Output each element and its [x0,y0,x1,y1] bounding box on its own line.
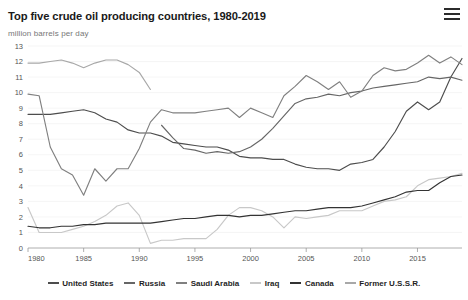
x-axis-tick-label: 1985 [75,254,92,263]
x-axis-tick-label: 1990 [131,254,148,263]
legend-label: Iraq [265,279,280,288]
x-axis-tick-label: 2005 [298,254,315,263]
legend-item-united-states[interactable]: United States [48,279,114,288]
chart-plot-area: 0123456789101112131980198519901995200020… [0,40,468,270]
y-axis-tick-label: 7 [19,135,23,144]
legend-label: Russia [139,279,165,288]
chart-header: Top five crude oil producing countries, … [8,6,460,28]
legend-swatch-icon [345,282,356,284]
hamburger-menu-icon[interactable] [444,8,460,22]
legend-item-iraq[interactable]: Iraq [250,279,279,288]
series-line-united-states [28,58,462,170]
line-chart: 0123456789101112131980198519901995200020… [0,40,468,270]
legend-label: Saudi Arabia [191,279,240,288]
y-axis-tick-label: 6 [19,150,23,159]
series-line-iraq [28,173,462,243]
y-axis-tick-label: 12 [15,57,23,66]
menu-bar-1 [444,8,460,10]
menu-bar-2 [444,13,460,15]
y-axis-tick-label: 10 [15,88,23,97]
y-axis-tick-label: 13 [15,42,23,51]
series-line-former-u-s-s-r [28,60,150,90]
y-axis-tick-label: 0 [19,244,23,253]
x-axis-tick-label: 2010 [354,254,371,263]
legend-swatch-icon [250,282,261,284]
chart-subtitle: million barrels per day [8,29,89,38]
legend-label: Former U.S.S.R. [359,279,420,288]
y-axis-tick-label: 3 [19,197,23,206]
legend-label: United States [62,279,113,288]
x-axis-tick-label: 1980 [28,254,45,263]
x-axis-tick-label: 2015 [409,254,426,263]
legend-swatch-icon [176,282,187,284]
chart-page: Top five crude oil producing countries, … [0,0,468,300]
page-title: Top five crude oil producing countries, … [8,9,266,23]
y-axis-tick-label: 2 [19,213,23,222]
menu-bar-3 [444,18,460,20]
y-axis-tick-label: 8 [19,119,23,128]
y-axis-tick-label: 11 [15,73,23,82]
y-axis-tick-label: 5 [19,166,23,175]
x-axis-tick-label: 1995 [187,254,204,263]
legend-swatch-icon [290,282,301,284]
legend-item-russia[interactable]: Russia [124,279,165,288]
legend-item-former-u-s-s-r[interactable]: Former U.S.S.R. [345,279,420,288]
legend-swatch-icon [48,282,59,284]
legend-item-canada[interactable]: Canada [290,279,333,288]
series-line-saudi-arabia [28,55,462,195]
y-axis-tick-label: 9 [19,104,23,113]
series-line-russia [162,77,462,153]
x-axis-tick-label: 2000 [242,254,259,263]
legend-swatch-icon [124,282,135,284]
legend-item-saudi-arabia[interactable]: Saudi Arabia [176,279,239,288]
y-axis-tick-label: 4 [19,182,23,191]
chart-legend: United StatesRussiaSaudi ArabiaIraqCanad… [0,272,468,294]
y-axis-tick-label: 1 [19,228,23,237]
legend-label: Canada [305,279,334,288]
